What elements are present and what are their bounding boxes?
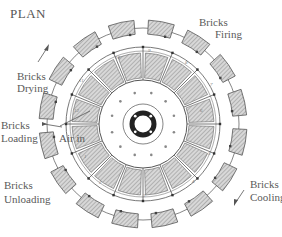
arrow-down-icon [234, 199, 238, 206]
center-circle [123, 104, 163, 144]
outer-chamber-segment [39, 93, 57, 120]
outer-chamber-segment [229, 129, 247, 156]
label-bricks-drying-1: Bricks [17, 70, 46, 82]
outer-chamber-segment [39, 132, 58, 159]
svg-text:12: 12 [74, 108, 80, 113]
label-bricks-cooling-2: Cooling [250, 191, 282, 203]
outer-chamber-segment [228, 89, 247, 116]
label-air-in: Air in [59, 132, 85, 144]
label-bricks-drying-2: Drying [17, 82, 48, 94]
svg-text:7: 7 [210, 82, 213, 87]
svg-text:11: 11 [79, 78, 84, 83]
svg-text:1: 1 [84, 154, 87, 159]
arrow-up-icon [44, 44, 49, 51]
svg-text:10: 10 [115, 55, 121, 60]
outer-chamber-segment [151, 209, 178, 228]
air-in-arrowhead-icon [42, 122, 47, 126]
label-bricks-loading-2: Loading [1, 132, 38, 144]
label-bricks-unloading-2: Unloading [4, 193, 50, 205]
outer-chamber-segment [112, 210, 139, 228]
label-bricks-loading-1: Bricks [1, 119, 30, 131]
label-bricks-cooling-1: Bricks [250, 178, 279, 190]
outer-chamber-segment [148, 20, 175, 38]
label-bricks-unloading-1: Bricks [4, 179, 33, 191]
svg-text:9: 9 [148, 48, 151, 53]
label-bricks-firing-2: Firing [215, 28, 242, 40]
label-bricks-firing-1: Bricks [199, 16, 228, 28]
outer-chamber-segment [108, 20, 135, 39]
